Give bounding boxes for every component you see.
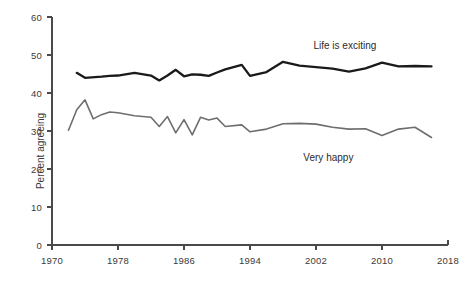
x-axis-tick: 1986: [173, 255, 195, 266]
y-axis-tick: 0: [12, 240, 42, 251]
x-axis-tick: 2018: [437, 255, 459, 266]
y-axis-tick: 60: [12, 12, 42, 23]
y-axis-tick: 20: [12, 164, 42, 175]
y-axis-tick: 40: [12, 88, 42, 99]
y-axis-tick: 50: [12, 50, 42, 61]
y-axis-label: Percent agreeing: [35, 113, 46, 189]
chart-series: [69, 62, 432, 138]
x-axis-tick: 2010: [371, 255, 393, 266]
series-label: Very happy: [303, 152, 353, 163]
y-axis-tick: 10: [12, 202, 42, 213]
x-axis-tick: 1994: [239, 255, 261, 266]
series-label: Life is exciting: [313, 40, 376, 51]
x-axis-tick: 2002: [305, 255, 327, 266]
x-axis-tick: 1970: [41, 255, 63, 266]
line-chart-plot: [0, 0, 468, 302]
series-line: [77, 62, 432, 81]
series-line: [69, 100, 432, 138]
x-axis-tick: 1978: [107, 255, 129, 266]
y-axis-tick: 30: [12, 126, 42, 137]
chart-container: Percent agreeing 0102030405060 197019781…: [0, 0, 468, 302]
